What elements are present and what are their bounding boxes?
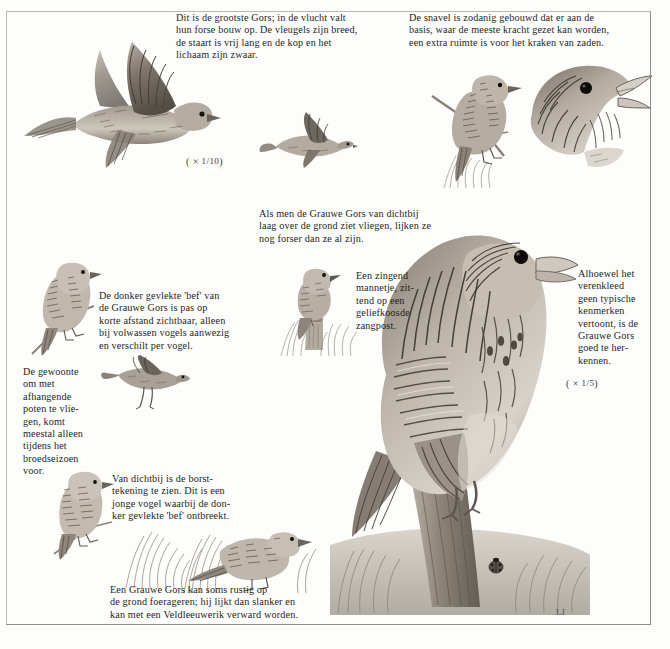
caption-dangling-legs: De gewoonte om met afhangende poten te v… (23, 366, 101, 478)
corn-bunting-singing-post-illustration (275, 262, 365, 357)
caption-low-flight: Als men de Grauwe Gors van dichtbij laag… (259, 208, 474, 245)
caption-breast-markings: Van dichtbij is de borst- tekening te zi… (112, 473, 257, 523)
scale-fraction: 1/10 (202, 156, 220, 166)
caption-plumage-recognition: Alhoewel het verenkleed geen typische ke… (578, 268, 658, 367)
artist-signature: LJ (556, 608, 565, 617)
corn-bunting-flight-dangling-legs-illustration (100, 355, 190, 410)
caption-bill-structure: De snavel is zodanig gebouwd dat er aan … (409, 12, 659, 49)
ground-vegetation-illustration (120, 520, 190, 590)
scale-note-flight: ( × 1/10) (186, 156, 223, 167)
caption-singing-male: Een zingend mannetje, zit- tend op een g… (356, 270, 432, 332)
corn-bunting-flight-small-illustration (258, 110, 358, 170)
caption-flight-large: Dit is de grootste Gors; in de vlucht va… (176, 12, 398, 62)
corn-bunting-head-profile-illustration (528, 62, 653, 177)
corn-bunting-perched-twig-illustration (430, 60, 545, 190)
scale-prefix: ( × (186, 156, 199, 167)
illustration-page: Dit is de grootste Gors; in de vlucht va… (0, 0, 670, 649)
caption-ground-foraging: Een Grauwe Gors kan soms rustig op de gr… (110, 584, 350, 621)
scale-note-perched: ( × 1/5) (566, 378, 598, 389)
scale-prefix: ( × (566, 378, 579, 389)
scale-suffix: ) (594, 378, 598, 389)
scale-fraction: 1/5 (582, 378, 595, 388)
caption-dark-bib: De donker gevlekte 'bef' van de Grauwe G… (99, 290, 249, 352)
scale-suffix: ) (219, 156, 223, 167)
